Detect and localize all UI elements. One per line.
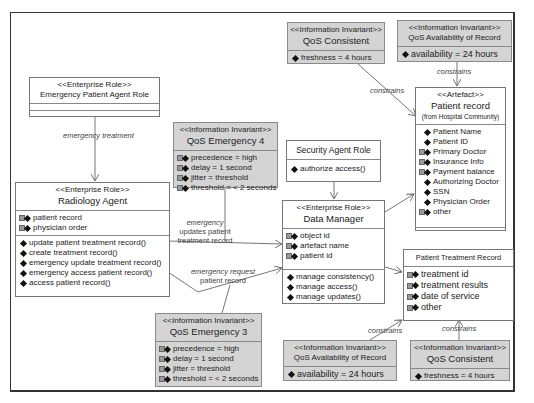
diamond-icon — [164, 345, 171, 352]
attribute: Insurance Info — [419, 157, 502, 167]
attribute: physician order — [19, 223, 166, 233]
data-manager-box[interactable]: <<Enterprise Role>> Data Manager object … — [282, 200, 385, 304]
stereotype: <<Enterprise Role>> — [32, 80, 157, 90]
edge-label-constrains: constrains — [437, 67, 471, 76]
operation: access patient record() — [19, 278, 166, 288]
diamond-icon — [424, 148, 431, 155]
diamond-icon — [424, 188, 431, 195]
class-name: QoS Emergency 3 — [158, 326, 259, 338]
attribute: jitter = threshold — [159, 364, 258, 374]
edge-label-constrains: constrains — [370, 86, 404, 95]
diamond-icon — [182, 164, 189, 171]
class-name: QoS Availability of Record — [286, 353, 394, 363]
class-name: Patient record — [418, 100, 503, 112]
stereotype: <<Information Invariant>> — [158, 316, 259, 326]
attribute: availability = 24 hours — [401, 49, 508, 60]
diamond-icon — [24, 224, 31, 231]
class-name: QoS Consistent — [413, 353, 507, 365]
emergency-patient-agent-role-box[interactable]: <<Enterprise Role>> Emergency Patient Ag… — [29, 77, 160, 117]
edge-label-emergency-updates: emergency updates patient treatment reco… — [174, 218, 236, 245]
attribute: SSN — [419, 187, 502, 197]
stereotype: <<Information Invariant>> — [176, 125, 275, 135]
diamond-icon — [287, 273, 294, 280]
attribute: patient record — [19, 213, 166, 223]
qos-consistent-bottom-box[interactable]: <<Information Invariant>> QoS Consistent… — [410, 340, 510, 381]
attribute: treatment results — [407, 280, 510, 291]
diamond-icon — [20, 239, 27, 246]
class-name: Patient Treatment Record — [406, 253, 511, 263]
qos-emergency-3-box[interactable]: <<Information Invariant>> QoS Emergency … — [155, 313, 262, 387]
diamond-icon — [291, 242, 298, 249]
attribute: treatment id — [407, 269, 510, 280]
attribute: other — [407, 302, 510, 313]
attribute: threshold = < 2 seconds — [177, 183, 274, 193]
attribute: freshness = 4 hours — [414, 371, 506, 381]
class-name: QoS Availability of Record — [400, 33, 509, 43]
diamond-icon — [424, 158, 431, 165]
stereotype: <<Enterprise Role>> — [18, 185, 167, 195]
attribute: Payment balance — [419, 167, 502, 177]
diamond-icon — [292, 54, 299, 61]
attribute: Authorizing Doctor — [419, 177, 502, 187]
patient-treatment-record-box[interactable]: Patient Treatment Record treatment id tr… — [403, 249, 514, 321]
operation: create treatment record() — [19, 248, 166, 258]
attribute: Patient Name — [419, 127, 502, 137]
security-agent-role-box[interactable]: Security Agent Role authorize access() — [286, 140, 381, 182]
diamond-icon — [412, 293, 419, 300]
stereotype: <<Information Invariant>> — [290, 25, 382, 35]
patient-record-box[interactable]: <<Artefact>> Patient record (from Hospit… — [415, 87, 506, 231]
attribute: jitter = threshold — [177, 173, 274, 183]
edge-label-emergency-request: emergency request patient record — [183, 267, 263, 285]
operation: emergency access patient record() — [19, 268, 166, 278]
radiology-agent-box[interactable]: <<Enterprise Role>> Radiology Agent pati… — [15, 182, 170, 297]
attribute: Patient ID — [419, 137, 502, 147]
class-name: Emergency Patient Agent Role — [32, 90, 157, 100]
attribute: other — [419, 207, 502, 217]
attribute: Primary Doctor — [419, 147, 502, 157]
diamond-icon — [424, 198, 431, 205]
diamond-icon — [291, 165, 298, 172]
diamond-icon — [24, 214, 31, 221]
operation: update patient treatment record() — [19, 238, 166, 248]
diamond-icon — [20, 269, 27, 276]
attribute: artefact name — [286, 241, 381, 251]
diamond-icon — [424, 128, 431, 135]
diamond-icon — [424, 178, 431, 185]
qos-availability-top-box[interactable]: <<Information Invariant>> QoS Availabili… — [397, 20, 512, 62]
diamond-icon — [164, 365, 171, 372]
operation: manage consistency() — [286, 272, 381, 282]
diamond-icon — [20, 279, 27, 286]
attribute: delay = 1 second — [159, 354, 258, 364]
attribute: date of service — [407, 291, 510, 302]
diamond-icon — [291, 232, 298, 239]
diamond-icon — [424, 208, 431, 215]
stereotype: <<Enterprise Role>> — [285, 203, 382, 213]
qos-availability-bottom-box[interactable]: <<Information Invariant>> QoS Availabili… — [283, 340, 397, 381]
qos-consistent-top-box[interactable]: <<Information Invariant>> QoS Consistent… — [287, 22, 385, 64]
diamond-icon — [287, 283, 294, 290]
class-name: Data Manager — [285, 213, 382, 225]
diamond-icon — [287, 293, 294, 300]
attribute: threshold = < 2 seconds — [159, 374, 258, 384]
class-name: QoS Emergency 4 — [176, 135, 275, 147]
attribute: patient id — [286, 251, 381, 261]
diamond-icon — [164, 355, 171, 362]
class-name: Radiology Agent — [18, 195, 167, 207]
diamond-icon — [20, 249, 27, 256]
diamond-icon — [291, 252, 298, 259]
diamond-icon — [424, 138, 431, 145]
diamond-icon — [424, 168, 431, 175]
operation: manage access() — [286, 282, 381, 292]
stereotype: <<Information Invariant>> — [400, 23, 509, 33]
stereotype: <<Information Invariant>> — [286, 343, 394, 353]
diamond-icon — [288, 371, 295, 378]
attribute: delay = 1 second — [177, 163, 274, 173]
diamond-icon — [412, 271, 419, 278]
diamond-icon — [415, 372, 422, 379]
diamond-icon — [182, 184, 189, 191]
qos-emergency-4-box[interactable]: <<Information Invariant>> QoS Emergency … — [173, 122, 278, 188]
attribute: freshness = 4 hours — [291, 53, 381, 63]
diamond-icon — [412, 304, 419, 311]
diamond-icon — [20, 259, 27, 266]
edge-label-constrains: constrains — [442, 324, 476, 333]
